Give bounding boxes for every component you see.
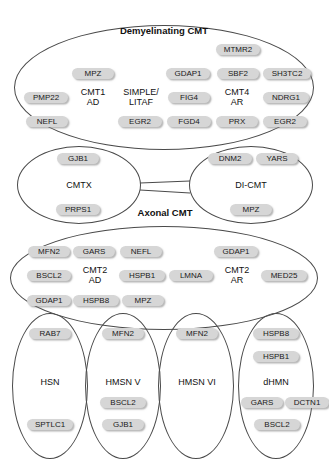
gene-pill-gdap1-axonal-top[interactable]: GDAP1 [214, 246, 258, 257]
gene-pill-lmna[interactable]: LMNA [169, 270, 213, 281]
gene-pill-yars[interactable]: YARS [256, 153, 298, 164]
gene-pill-bscl2-axonal[interactable]: BSCL2 [27, 270, 71, 281]
subgroup-label-simple-litaf: SIMPLE/LITAF [116, 87, 166, 107]
gene-pill-fig4[interactable]: FIG4 [168, 92, 210, 103]
gene-pill-bscl2-dhmn[interactable]: BSCL2 [254, 419, 300, 430]
gene-pill-gjb1-hmsnv[interactable]: GJB1 [102, 419, 144, 430]
gene-pill-dctn1[interactable]: DCTN1 [285, 397, 329, 408]
gene-pill-bscl2-hmsnv[interactable]: BSCL2 [100, 397, 146, 408]
gene-pill-egr2-demy-2[interactable]: EGR2 [263, 116, 307, 127]
gene-pill-dnm2[interactable]: DNM2 [208, 153, 252, 164]
gene-pill-mfn2-hmsnv[interactable]: MFN2 [102, 328, 144, 339]
gene-pill-gars-axonal[interactable]: GARS [73, 246, 115, 257]
gene-pill-mfn2-axonal[interactable]: MFN2 [28, 246, 70, 257]
gene-pill-med25[interactable]: MED25 [261, 270, 307, 281]
gene-pill-prx[interactable]: PRX [216, 116, 258, 127]
subgroup-label-cmt2-ad: CMT2AD [73, 265, 117, 285]
gene-pill-ndrg1[interactable]: NDRG1 [263, 92, 309, 103]
subgroup-label-hmsn-v: HMSN V [98, 377, 148, 387]
title-demyelinating-cmt: Demyelinating CMT [104, 26, 224, 36]
gene-pill-mtmr2[interactable]: MTMR2 [216, 44, 260, 55]
gene-pill-nefl-axonal[interactable]: NEFL [120, 246, 162, 257]
gene-pill-pmp22[interactable]: PMP22 [24, 92, 68, 103]
subgroup-label-hsn: HSN [28, 377, 72, 387]
gene-pill-nefl-demy[interactable]: NEFL [26, 116, 68, 127]
title-axonal-cmt: Axonal CMT [125, 208, 205, 218]
subgroup-label-cmt1-ad: CMT1AD [71, 87, 115, 107]
gene-pill-gdap1-axonal-bottom[interactable]: GDAP1 [27, 295, 71, 306]
gene-pill-sptlc1[interactable]: SPTLC1 [27, 419, 73, 430]
subgroup-label-hmsn-vi: HMSN VI [170, 377, 224, 387]
gene-pill-gdap1-demy[interactable]: GDAP1 [166, 68, 210, 79]
gene-pill-fgd4[interactable]: FGD4 [167, 116, 211, 127]
subgroup-label-cmt4-ar: CMT4AR [215, 87, 259, 107]
gene-pill-rab7[interactable]: RAB7 [29, 328, 71, 339]
gene-pill-prps1[interactable]: PRPS1 [56, 204, 100, 215]
gene-pill-hspb1-dhmn[interactable]: HSPB1 [253, 351, 299, 362]
gene-pill-mpz-dicmt[interactable]: MPZ [230, 204, 272, 215]
gene-pill-hspb1-axonal[interactable]: HSPB1 [119, 270, 165, 281]
gene-pill-gjb1-cmtx[interactable]: GJB1 [57, 153, 99, 164]
subgroup-label-dhmn: dHMN [252, 377, 300, 387]
gene-pill-mfn2-hmsnvi[interactable]: MFN2 [176, 328, 218, 339]
gene-pill-sbf2[interactable]: SBF2 [217, 68, 259, 79]
subgroup-label-di-cmt: DI-CMT [227, 180, 275, 190]
gene-pill-mpz-axonal[interactable]: MPZ [122, 295, 164, 306]
subgroup-label-cmt2-ar: CMT2AR [215, 265, 259, 285]
gene-pill-gars-dhmn[interactable]: GARS [241, 397, 283, 408]
gene-pill-egr2-demy-1[interactable]: EGR2 [118, 116, 162, 127]
subgroup-label-cmtx: CMTX [57, 180, 101, 190]
gene-pill-sh3tc2[interactable]: SH3TC2 [263, 68, 311, 79]
gene-pill-hspb8-dhmn[interactable]: HSPB8 [253, 328, 299, 339]
gene-pill-hspb8-axonal[interactable]: HSPB8 [73, 295, 119, 306]
gene-pill-mpz-demy[interactable]: MPZ [72, 68, 114, 79]
